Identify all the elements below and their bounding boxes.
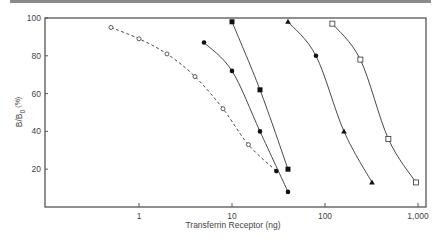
series-filled-square: [230, 19, 291, 171]
y-tick-label: 40: [32, 126, 42, 136]
series-open-square: [330, 21, 419, 185]
series-open-circle-dashed: [109, 25, 279, 173]
data-point-open-square: [386, 136, 391, 141]
x-tick-label: 1,000: [407, 211, 429, 221]
data-point-open-square: [413, 180, 418, 185]
y-tick-label: 80: [32, 51, 42, 61]
y-axis-title-unit: (%): [14, 97, 22, 110]
series-filled-triangle: [285, 19, 375, 185]
data-point-filled-square: [257, 87, 262, 92]
data-point-filled-triangle: [369, 179, 375, 184]
data-point-open-circle: [137, 37, 141, 41]
data-point-filled-triangle: [285, 19, 291, 24]
y-tick-label: 20: [32, 164, 42, 174]
series-line: [111, 27, 276, 171]
series-group: [109, 19, 418, 194]
plot-frame: [45, 18, 426, 207]
data-point-filled-circle: [202, 40, 207, 45]
data-point-open-circle: [246, 143, 250, 147]
data-point-filled-circle: [230, 69, 235, 74]
y-tick-label: 100: [27, 13, 41, 23]
data-point-filled-square: [230, 19, 235, 24]
data-point-filled-square: [285, 167, 290, 172]
y-tick-label: 60: [32, 89, 42, 99]
data-point-open-square: [358, 57, 363, 62]
series-line: [332, 24, 416, 183]
data-point-filled-circle: [258, 129, 263, 134]
y-axis-title: B/B0 (%): [14, 97, 26, 127]
x-tick-label: 1: [137, 211, 142, 221]
data-point-filled-circle: [314, 54, 319, 59]
data-point-open-square: [330, 21, 335, 26]
data-point-filled-circle: [286, 190, 291, 195]
data-point-filled-triangle: [341, 128, 347, 133]
data-point-open-circle: [193, 75, 197, 79]
series-line: [232, 22, 288, 169]
x-axis-title: Transferrin Receptor (ng): [185, 220, 280, 230]
chart: 204060801001101001,000 Transferrin Recep…: [0, 0, 438, 242]
data-point-open-circle: [109, 25, 113, 29]
y-axis-title-main: B/B: [14, 113, 24, 127]
x-tick-label: 100: [318, 211, 332, 221]
data-point-open-circle: [165, 52, 169, 56]
axes: 204060801001101001,000: [27, 13, 429, 221]
series-line: [288, 22, 372, 183]
data-point-open-circle: [221, 107, 225, 111]
